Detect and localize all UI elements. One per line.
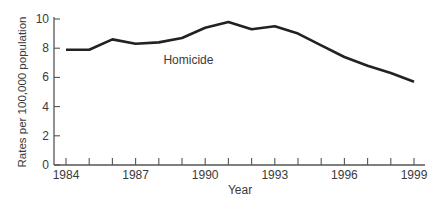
x-tick-label: 1987 xyxy=(122,168,149,182)
y-tick-label: 6 xyxy=(42,70,49,84)
y-tick-label: 8 xyxy=(42,41,49,55)
tick-labels: 0246810198419871990199319961999 xyxy=(36,12,428,182)
y-tick-label: 0 xyxy=(42,158,49,172)
y-tick-label: 4 xyxy=(42,100,49,114)
y-tick-label: 10 xyxy=(36,12,50,26)
homicide-rate-chart: 0246810198419871990199319961999 Homicide… xyxy=(0,0,445,204)
y-axis-title: Rates per 100,000 population xyxy=(16,17,28,168)
x-axis-title: Year xyxy=(228,183,252,197)
x-tick-label: 1999 xyxy=(401,168,428,182)
homicide-series-line xyxy=(66,22,414,82)
x-tick-label: 1993 xyxy=(261,168,288,182)
x-tick-label: 1990 xyxy=(192,168,219,182)
x-tick-label: 1984 xyxy=(53,168,80,182)
y-tick-label: 2 xyxy=(42,129,49,143)
homicide-series-label: Homicide xyxy=(163,53,213,67)
x-tick-label: 1996 xyxy=(331,168,358,182)
